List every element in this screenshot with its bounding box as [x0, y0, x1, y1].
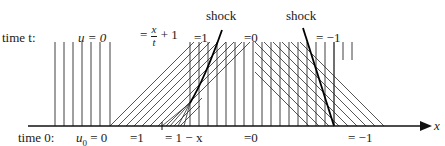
- x-axis-label: x: [434, 119, 440, 132]
- fan-denominator: t: [151, 37, 158, 49]
- fan-numerator: x: [151, 24, 158, 37]
- fan-eq-sign: =: [140, 27, 147, 42]
- label-top-eq-1: =1: [194, 31, 208, 44]
- vertical-characteristics-right: [343, 42, 352, 60]
- right-moving-characteristics: [110, 42, 250, 126]
- left-moving-characteristics: [255, 42, 384, 126]
- label-fan-formula: = x t + 1: [140, 24, 178, 48]
- row-label-time-0: time 0:: [18, 131, 54, 144]
- time-t-text: time t:: [2, 30, 36, 45]
- label-u0-eq-0: u0 = 0: [76, 131, 107, 146]
- label-u-eq-0: u = 0: [78, 31, 106, 44]
- x-axis-arrowhead: [420, 121, 432, 131]
- label-bottom-eq-0: =0: [244, 131, 258, 144]
- row-label-time-t: time t:: [2, 31, 36, 44]
- label-top-eq-neg1: = −1: [316, 31, 340, 44]
- shock-label-left: shock: [206, 9, 236, 22]
- fan-fraction: x t: [151, 24, 158, 48]
- u0-value: = 0: [87, 130, 107, 145]
- label-bottom-eq-neg1: = −1: [348, 131, 372, 144]
- label-top-eq-0: =0: [244, 31, 258, 44]
- shock-label-right: shock: [286, 9, 316, 22]
- fan-plus-one: + 1: [161, 27, 178, 42]
- label-bottom-eq-1-minus-x: = 1 − x: [165, 131, 202, 144]
- label-bottom-eq-1: =1: [130, 131, 144, 144]
- vertical-characteristics-left: [55, 42, 110, 126]
